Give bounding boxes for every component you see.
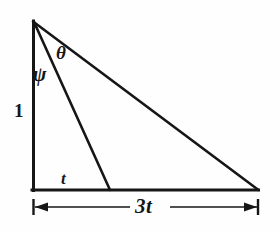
dimension-arrowhead-left [35,203,48,212]
label-base-dimension: 3t [135,196,152,217]
geometry-figure: 1 ψ θ t 3t [0,0,280,232]
label-angle-psi: ψ [33,64,46,84]
label-cevian-base: t [61,170,66,187]
dimension-arrowhead-right [244,203,257,212]
cevian-line [34,22,110,190]
label-angle-theta: θ [56,43,66,62]
label-vertical-side: 1 [14,101,24,120]
hypotenuse-line [33,22,259,191]
